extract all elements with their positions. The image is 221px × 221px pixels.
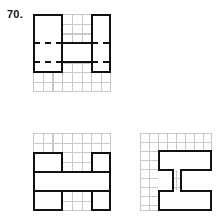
item-number: 70. (7, 9, 23, 20)
answer-option-a[interactable] (33, 133, 111, 211)
question-figure (33, 14, 111, 92)
bottom-bar-top-left (158, 190, 174, 192)
bottom-bar-left (158, 190, 160, 211)
top-bar-left (158, 150, 160, 171)
worksheet-page: 70. (0, 0, 221, 221)
mask-top-bar (158, 150, 212, 170)
mask-top-left-bar (33, 152, 63, 173)
left-stem-wall (172, 169, 174, 192)
bottom-bar-bottom (158, 209, 212, 211)
lower-left-box-top (33, 190, 63, 192)
mask-left-stem (158, 169, 172, 191)
middle-band-top (33, 171, 111, 173)
dash-right-upper (92, 42, 110, 44)
option-b-shape (140, 133, 212, 211)
top-bar-bottom-right (180, 169, 212, 171)
option-a-shape (33, 133, 111, 211)
left-bottom-cap (33, 71, 63, 73)
right-bottom-cap (91, 71, 111, 73)
lower-right-box-left (91, 190, 93, 211)
right-stem-wall (180, 169, 182, 192)
crossbar-lower (61, 61, 93, 63)
lower-left-box-bottom (33, 209, 63, 211)
lower-left-box-right (61, 190, 63, 211)
right-top-cap (91, 14, 111, 16)
mask-right-stem (180, 169, 212, 191)
lower-right-box-right (109, 190, 111, 211)
bottom-bar-right (210, 190, 212, 211)
top-bar-right (210, 150, 212, 171)
question-shape (33, 14, 111, 92)
lower-left-box-left (33, 190, 35, 211)
bottom-bar-top-right (180, 190, 212, 192)
answer-option-b[interactable] (140, 133, 212, 211)
upper-left-box-top (33, 152, 63, 154)
left-top-cap (33, 14, 63, 16)
top-bar-top (158, 150, 212, 152)
mask-middle-band (33, 172, 111, 192)
crossbar-upper (61, 42, 93, 44)
dash-left-lower (34, 61, 62, 63)
mask-center-bridge (62, 43, 92, 63)
dash-right-lower (92, 61, 110, 63)
dash-left-upper (34, 42, 62, 44)
